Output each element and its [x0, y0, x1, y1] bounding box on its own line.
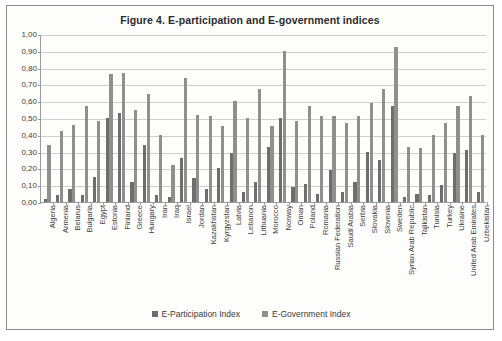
y-axis-tick-label: 0,00: [11, 199, 37, 207]
y-axis-tick-label: 0,50: [11, 115, 37, 123]
bar-e-participation: [254, 182, 257, 202]
bar-e-government: [394, 47, 397, 202]
bar-e-participation: [403, 197, 406, 202]
x-axis: AlgeriaArmeniaBelarusBulgariaEgyptEstoni…: [40, 205, 486, 305]
bar-group: [475, 35, 487, 202]
bar-group: [276, 35, 288, 202]
bar-e-government: [209, 116, 212, 202]
bar-group: [66, 35, 78, 202]
bar-e-government: [159, 135, 162, 202]
x-axis-tick-label: Serbia: [359, 205, 367, 227]
plot-wrapper: 1,000,900,800,700,600,500,400,300,200,10…: [7, 6, 495, 331]
bar-e-participation: [329, 170, 332, 202]
y-axis-tickmark: [38, 203, 41, 204]
bar-e-government: [419, 148, 422, 202]
y-axis-tickmark: [38, 69, 41, 70]
bar-e-participation: [391, 106, 394, 202]
bar-group: [202, 35, 214, 202]
x-axis-tick-label: Slovenia: [384, 205, 392, 234]
y-axis-tick-label: 0,30: [11, 149, 37, 157]
bar-group: [314, 35, 326, 202]
bar-e-participation: [93, 177, 96, 202]
y-axis: 1,000,900,800,700,600,500,400,300,200,10…: [11, 35, 37, 203]
bar-e-participation: [279, 118, 282, 202]
bars-layer: [41, 35, 486, 202]
bar-e-government: [270, 126, 273, 202]
square-swatch-icon: [152, 311, 158, 317]
bar-group: [301, 35, 313, 202]
x-axis-tick-label: Lithuania: [260, 205, 268, 235]
bar-group: [53, 35, 65, 202]
bar-e-government: [407, 147, 410, 202]
bar-e-participation: [267, 147, 270, 202]
bar-e-participation: [217, 168, 220, 202]
y-axis-tickmark: [38, 102, 41, 103]
y-axis-tick-label: 0,80: [11, 65, 37, 73]
x-axis-tick-label: Iran: [161, 205, 169, 218]
bar-e-government: [246, 118, 249, 202]
bar-group: [41, 35, 53, 202]
bar-e-participation: [341, 192, 344, 202]
legend-label: E-Government Index: [272, 309, 350, 319]
bar-e-participation: [192, 178, 195, 202]
x-axis-tick-label: Tunisia: [433, 205, 441, 229]
bar-e-participation: [106, 118, 109, 202]
bar-e-participation: [230, 153, 233, 202]
bar-e-government: [469, 96, 472, 202]
x-axis-tick-label: Israel: [185, 205, 193, 223]
bar-group: [264, 35, 276, 202]
bar-group: [388, 35, 400, 202]
x-axis-tick-label: Slovakia: [371, 205, 379, 233]
bar-e-participation: [68, 189, 71, 202]
x-axis-tick-label: Kazakhstan: [210, 205, 218, 244]
x-axis-tick-label: Uzbekistan: [483, 205, 491, 242]
x-axis-tick-label: Egypt: [99, 205, 107, 224]
figure-container: Figure 4. E-participation and E-governme…: [6, 5, 494, 330]
bar-e-participation: [118, 113, 121, 202]
bar-group: [239, 35, 251, 202]
bar-e-participation: [242, 192, 245, 202]
y-axis-tick-label: 1,00: [11, 31, 37, 39]
y-axis-tick-label: 0,40: [11, 132, 37, 140]
x-axis-tick-label: Algeria: [49, 205, 57, 228]
bar-group: [363, 35, 375, 202]
x-axis-tick-label: Estonia: [111, 205, 119, 230]
x-axis-tick-label: Kyrgyzstan: [223, 205, 231, 242]
bar-e-participation: [353, 182, 356, 202]
y-axis-tickmark: [38, 169, 41, 170]
y-axis-tickmark: [38, 186, 41, 187]
bar-group: [326, 35, 338, 202]
bar-e-participation: [56, 195, 59, 202]
bar-e-government: [196, 115, 199, 202]
x-axis-tick-label: Norway: [285, 205, 293, 230]
y-axis-tickmark: [38, 52, 41, 53]
x-axis-tick-label: Romania: [322, 205, 330, 235]
bar-e-government: [283, 51, 286, 202]
y-axis-tick-label: 0,10: [11, 182, 37, 190]
bar-group: [140, 35, 152, 202]
bar-e-government: [147, 94, 150, 202]
bar-e-government: [382, 89, 385, 202]
x-axis-tick-label: Finland: [124, 205, 132, 230]
bar-group: [227, 35, 239, 202]
bar-group: [252, 35, 264, 202]
bar-group: [115, 35, 127, 202]
bar-group: [103, 35, 115, 202]
x-axis-tick-label: Iraq: [173, 205, 181, 218]
y-axis-tick-label: 0,90: [11, 48, 37, 56]
x-axis-tick-label: Jordan: [198, 205, 206, 228]
bar-e-government: [370, 103, 373, 202]
bar-group: [450, 35, 462, 202]
bar-e-government: [109, 74, 112, 202]
bar-e-government: [72, 125, 75, 202]
x-axis-tick-label: Bulgaria: [86, 205, 94, 233]
bar-group: [214, 35, 226, 202]
bar-e-participation: [291, 187, 294, 202]
y-axis-tick-label: 0,60: [11, 98, 37, 106]
x-axis-tick-label: Saudi Arabia: [347, 205, 355, 248]
x-axis-tick-label: United Arab Emirates: [470, 205, 478, 276]
bar-group: [425, 35, 437, 202]
y-axis-tickmark: [38, 35, 41, 36]
x-axis-tick-label: Poland: [309, 205, 317, 228]
bar-e-participation: [378, 160, 381, 202]
